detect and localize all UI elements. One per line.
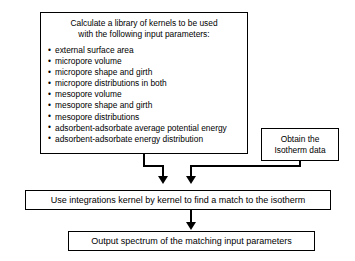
bullet-icon: • — [48, 45, 51, 56]
bullet-icon: • — [48, 67, 51, 78]
parameter-label: adsorbent-adsorbate average potential en… — [55, 123, 227, 133]
arrowhead-integrations-to-output — [186, 222, 196, 230]
input-parameters-box: Calculate a library of kernels to be use… — [40, 12, 248, 154]
parameters-title-line-2: with the following input parameters: — [41, 29, 247, 40]
connector-isotherm-drop — [190, 165, 192, 176]
parameters-list: •external surface area •micropore volume… — [41, 45, 247, 145]
connector-isotherm-horizontal — [190, 165, 301, 167]
bullet-icon: • — [48, 78, 51, 89]
list-item: •adsorbent-adsorbate energy distribution — [48, 134, 247, 145]
parameter-label: mesopore shape and girth — [55, 100, 152, 110]
parameter-label: micropore distributions in both — [55, 78, 167, 88]
bullet-icon: • — [48, 89, 51, 100]
parameter-label: adsorbent-adsorbate energy distribution — [55, 134, 203, 144]
isotherm-line-2: Isotherm data — [274, 145, 325, 155]
list-item: •micropore distributions in both — [48, 78, 247, 89]
parameter-label: micropore shape and girth — [55, 67, 152, 77]
bullet-icon: • — [48, 100, 51, 111]
flowchart-diagram: Calculate a library of kernels to be use… — [0, 0, 355, 261]
parameter-label: micropore volume — [55, 56, 122, 66]
isotherm-line-1: Obtain the — [281, 134, 320, 144]
connector-params-drop — [162, 165, 164, 176]
parameter-label: mesopore volume — [55, 89, 122, 99]
list-item: •micropore volume — [48, 56, 247, 67]
list-item: •adsorbent-adsorbate average potential e… — [48, 123, 247, 134]
bullet-icon: • — [48, 111, 51, 122]
list-item: •micropore shape and girth — [48, 67, 247, 78]
connector-params-horizontal — [143, 165, 164, 167]
parameter-label: mesopore distributions — [55, 112, 139, 122]
obtain-isotherm-data-box: Obtain the Isotherm data — [261, 128, 339, 161]
output-step-label: Output spectrum of the matching input pa… — [91, 236, 292, 246]
output-step-box: Output spectrum of the matching input pa… — [68, 231, 315, 251]
bullet-icon: • — [48, 122, 51, 133]
integrations-step-box: Use integrations kernel by kernel to fin… — [25, 190, 331, 210]
parameters-title-line-1: Calculate a library of kernels to be use… — [41, 18, 247, 29]
arrowhead-params-to-integrations — [158, 176, 168, 184]
bullet-icon: • — [48, 56, 51, 67]
parameter-label: external surface area — [55, 45, 134, 55]
list-item: •external surface area — [48, 45, 247, 56]
integrations-step-label: Use integrations kernel by kernel to fin… — [51, 195, 306, 205]
bullet-icon: • — [48, 133, 51, 144]
list-item: •mesopore shape and girth — [48, 100, 247, 111]
isotherm-box-text: Obtain the Isotherm data — [274, 134, 325, 156]
list-item: •mesopore distributions — [48, 112, 247, 123]
list-item: •mesopore volume — [48, 89, 247, 100]
arrowhead-isotherm-to-integrations — [186, 176, 196, 184]
